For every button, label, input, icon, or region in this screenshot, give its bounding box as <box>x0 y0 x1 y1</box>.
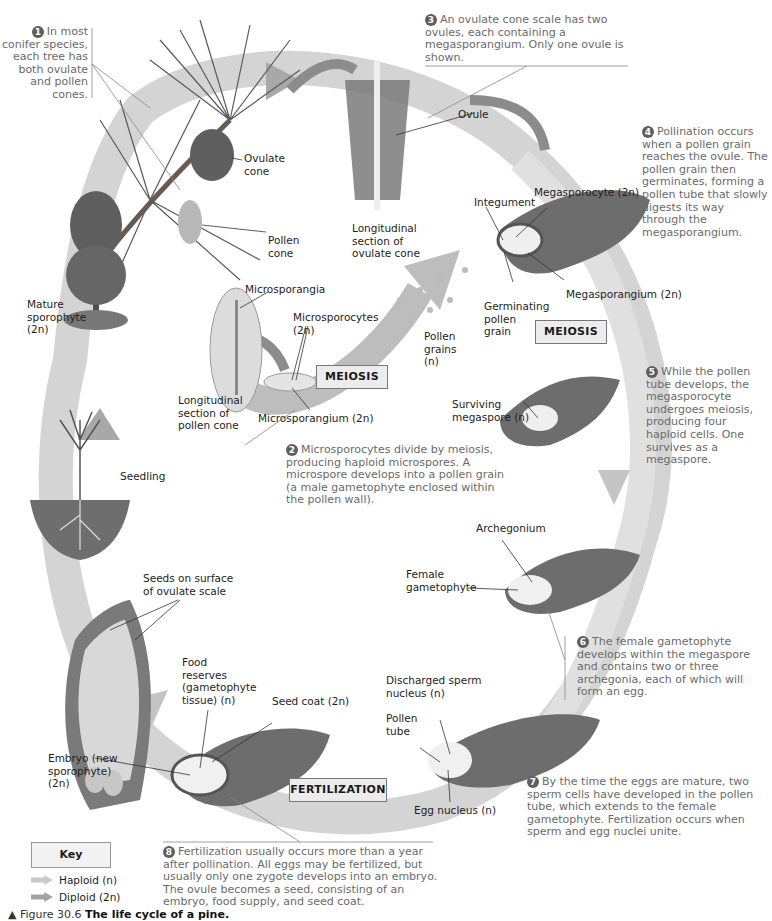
step-number-badge: 5 <box>646 366 658 378</box>
label-mature-sporophyte: Mature sporophyte (2n) <box>27 298 91 336</box>
step-number-badge: 2 <box>286 444 298 456</box>
legend-item-diploid: Diploid (2n) <box>31 891 120 903</box>
label-integument: Integument <box>474 196 535 209</box>
label-microsporangia: Microsporangia <box>245 283 325 296</box>
microsporangium-shape <box>264 373 316 391</box>
figure-caption: ▲ Figure 30.6 The life cycle of a pine. <box>8 908 229 921</box>
step-1-text: 1In most conifer species, each tree has … <box>0 26 88 102</box>
step-4-text: 4Pollination occurs when a pollen grain … <box>642 126 768 239</box>
label-seed-coat: Seed coat (2n) <box>272 695 349 708</box>
label-microsporangium: Microsporangium (2n) <box>258 412 374 425</box>
label-long-section-ovulate-cone: Longitudinal section of ovulate cone <box>352 222 422 260</box>
meiosis-box-megaspore: MEIOSIS <box>535 320 607 344</box>
ovulate-cone-shape <box>190 129 234 181</box>
pollen-cone-shape <box>178 200 202 244</box>
label-egg-nucleus: Egg nucleus (n) <box>414 804 496 817</box>
label-long-section-pollen-cone: Longitudinal section of pollen cone <box>178 394 248 432</box>
pine-life-cycle-diagram: 1In most conifer species, each tree has … <box>0 0 772 921</box>
step-number-badge: 8 <box>163 846 175 858</box>
step-3-text: 3An ovulate cone scale has two ovules, e… <box>425 14 635 64</box>
arrow-head-right <box>598 470 630 505</box>
step-number-badge: 6 <box>577 636 589 648</box>
label-seeds-on-scale: Seeds on surface of ovulate scale <box>143 572 235 597</box>
step-number-badge: 7 <box>527 776 539 788</box>
meiosis-box-microspores: MEIOSIS <box>316 365 388 389</box>
label-archegonium: Archegonium <box>476 522 546 535</box>
step-7-text: 7By the time the eggs are mature, two sp… <box>527 776 772 839</box>
step-number-badge: 3 <box>425 14 437 26</box>
label-food-reserves: Food reserves (gametophyte tissue) (n) <box>182 656 254 706</box>
step-8-text: 8Fertilization usually occurs more than … <box>163 846 438 909</box>
label-megasporangium: Megasporangium (2n) <box>566 288 682 301</box>
label-surviving-megaspore: Surviving megaspore (n) <box>452 398 532 423</box>
label-discharged-sperm-nucleus: Discharged sperm nucleus (n) <box>386 674 482 699</box>
step-number-badge: 1 <box>32 26 44 38</box>
label-seedling: Seedling <box>120 470 165 483</box>
label-female-gametophyte: Female gametophyte <box>406 568 468 593</box>
label-ovule: Ovule <box>458 108 489 121</box>
haploid-arrow-icon <box>31 875 53 885</box>
label-pollen-cone: Pollen cone <box>268 234 308 259</box>
legend-key-title: Key <box>31 842 111 868</box>
label-ovulate-cone: Ovulate cone <box>244 152 288 177</box>
step-number-badge: 4 <box>642 126 654 138</box>
arrow-head-left <box>78 408 120 440</box>
step-6-text: 6The female gametophyte develops within … <box>577 636 767 699</box>
diploid-arrow-icon <box>31 892 53 902</box>
label-megasporocyte: Megasporocyte (2n) <box>534 186 639 199</box>
label-pollen-grains: Pollen grains (n) <box>424 330 470 368</box>
legend-item-haploid: Haploid (n) <box>31 874 117 886</box>
step-2-text: 2Microsporocytes divide by meiosis, prod… <box>286 444 516 507</box>
label-embryo: Embryo (new sporophyte) (2n) <box>48 752 136 790</box>
step-5-text: 5While the pollen tube develops, the meg… <box>646 366 768 467</box>
ovulate-cone-section-illustration <box>345 60 410 210</box>
label-microsporocytes: Microsporocytes (2n) <box>293 311 373 336</box>
fertilization-box: FERTILIZATION <box>289 778 387 802</box>
label-pollen-tube: Pollen tube <box>386 712 420 737</box>
